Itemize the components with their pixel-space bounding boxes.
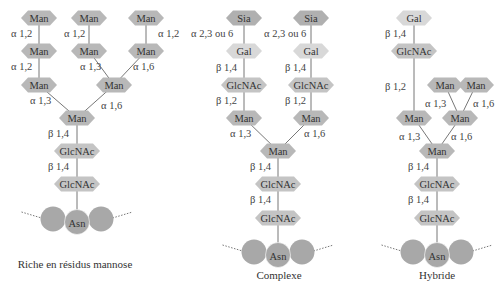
monosaccharide-label: GlcNAc: [227, 80, 262, 91]
monosaccharide-man: Man: [260, 144, 296, 159]
monosaccharide-label: Gal: [236, 46, 251, 57]
monosaccharide-glcnac: GlcNAc: [255, 177, 301, 192]
glycan-diagram: Asnα 1,2α 1,2α 1,2α 1,2α 1,3α 1,6α 1,3α …: [0, 0, 502, 289]
bond-label: α 1,2: [11, 28, 32, 39]
monosaccharide-glcnac: GlcNAc: [288, 78, 334, 93]
monosaccharide-label: Man: [450, 113, 470, 124]
bond-label: α 1,6: [473, 98, 494, 109]
bond-label: β 1,4: [48, 128, 70, 139]
bond-label: β 1,2: [216, 95, 237, 106]
monosaccharide-man: Man: [59, 111, 95, 126]
amino-acid-left: [41, 207, 66, 232]
bond-label: α 1,3: [30, 95, 51, 106]
monosaccharide-man: Man: [71, 44, 107, 59]
monosaccharide-man: Man: [442, 111, 478, 126]
bond-label: α 1,3: [399, 131, 420, 142]
bond-label: α 1,6: [133, 61, 154, 72]
monosaccharide-label: Man: [268, 146, 288, 157]
monosaccharide-label: Man: [301, 113, 321, 124]
monosaccharide-label: Man: [79, 13, 99, 24]
monosaccharide-label: GlcNAc: [420, 213, 455, 224]
peptide-chain-right: [113, 212, 133, 218]
bond-label: α 2,3 ou 6: [191, 28, 233, 39]
bond-label: α 1,3: [80, 61, 101, 72]
monosaccharide-man: Man: [21, 11, 57, 26]
panel-caption: Riche en résidus mannose: [18, 258, 133, 270]
monosaccharide-label: Sia: [237, 13, 251, 24]
monosaccharide-label: Sia: [304, 13, 318, 24]
bond-label: β 1,4: [250, 194, 272, 205]
bond-label: β 1,4: [285, 62, 307, 73]
asn-label: Asn: [429, 251, 447, 262]
panel-high-mannose: Asnα 1,2α 1,2α 1,2α 1,2α 1,3α 1,6α 1,3α …: [11, 11, 179, 271]
peptide-chain-left: [22, 212, 42, 218]
monosaccharide-glcnac: GlcNAc: [391, 44, 437, 59]
bond-label: α 1,6: [101, 100, 122, 111]
bond-label: α 1,2: [11, 61, 32, 72]
monosaccharide-label: Man: [404, 113, 424, 124]
monosaccharide-man: Man: [128, 44, 164, 59]
asn-label: Asn: [270, 251, 288, 262]
monosaccharide-label: Man: [29, 46, 49, 57]
monosaccharide-gal: Gal: [293, 44, 329, 59]
monosaccharide-man: Man: [128, 11, 164, 26]
bond-label: β 1,4: [385, 28, 407, 39]
bond-label: β 1,2: [385, 81, 406, 92]
monosaccharide-man: Man: [458, 78, 494, 93]
monosaccharide-man: Man: [427, 78, 463, 93]
amino-acid-right: [89, 207, 114, 232]
monosaccharide-glcnac: GlcNAc: [255, 211, 301, 226]
monosaccharide-label: Man: [104, 80, 124, 91]
monosaccharide-glcnac: GlcNAc: [221, 78, 267, 93]
bond-label: β 1,4: [48, 161, 70, 172]
monosaccharide-label: Man: [79, 46, 99, 57]
monosaccharide-glcnac: GlcNAc: [414, 211, 460, 226]
monosaccharide-sia: Sia: [293, 11, 329, 26]
bond-label: β 1,4: [250, 161, 272, 172]
monosaccharide-label: Man: [427, 146, 447, 157]
bond-label: α 1,2: [64, 28, 85, 39]
monosaccharide-man: Man: [226, 111, 262, 126]
bond-label: β 1,2: [285, 95, 306, 106]
asn-residue: Asn: [223, 240, 334, 268]
monosaccharide-man: Man: [293, 111, 329, 126]
peptide-chain-left: [223, 245, 243, 251]
bond-label: β 1,4: [408, 194, 430, 205]
bond-label: α 2,3 ou 6: [264, 28, 306, 39]
monosaccharide-label: Man: [67, 113, 87, 124]
asn-residue: Asn: [22, 207, 133, 235]
bond-label: α 1,3: [425, 98, 446, 109]
bond-label: α 1,2: [158, 28, 179, 39]
monosaccharides: GalGlcNAcManManManManManGlcNAcGlcNAc: [391, 11, 494, 226]
monosaccharide-gal: Gal: [396, 11, 432, 26]
amino-acid-left: [242, 240, 267, 265]
amino-acid-left: [401, 240, 426, 265]
monosaccharide-label: Man: [29, 80, 49, 91]
peptide-chain-right: [473, 245, 493, 251]
monosaccharide-sia: Sia: [226, 11, 262, 26]
monosaccharide-gal: Gal: [226, 44, 262, 59]
panel-complex: Asnα 2,3 ou 6α 2,3 ou 6β 1,4β 1,4β 1,2β …: [191, 11, 334, 282]
monosaccharide-label: Man: [136, 13, 156, 24]
monosaccharide-label: GlcNAc: [261, 179, 296, 190]
peptide-chain-left: [382, 245, 402, 251]
bond-label: α 1,3: [230, 128, 251, 139]
monosaccharide-label: Gal: [303, 46, 318, 57]
monosaccharide-label: Man: [234, 113, 254, 124]
monosaccharide-glcnac: GlcNAc: [54, 144, 100, 159]
amino-acid-right: [290, 240, 315, 265]
bond-label: α 1,6: [304, 128, 325, 139]
monosaccharide-man: Man: [21, 78, 57, 93]
amino-acid-right: [449, 240, 474, 265]
monosaccharide-label: Gal: [406, 13, 421, 24]
monosaccharide-label: Man: [435, 80, 455, 91]
monosaccharide-man: Man: [96, 78, 132, 93]
monosaccharide-label: GlcNAc: [420, 179, 455, 190]
bond-label: α 1,6: [451, 131, 472, 142]
monosaccharide-label: GlcNAc: [397, 46, 432, 57]
monosaccharide-glcnac: GlcNAc: [54, 177, 100, 192]
panel-caption: Hybride: [419, 269, 455, 281]
monosaccharide-man: Man: [419, 144, 455, 159]
monosaccharide-label: GlcNAc: [294, 80, 329, 91]
bond-label: β 1,4: [408, 161, 430, 172]
